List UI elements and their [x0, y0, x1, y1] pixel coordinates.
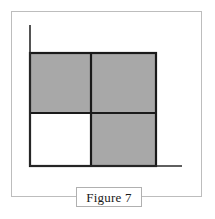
quadrant-bottom-left	[30, 113, 91, 166]
figure-caption-label: Figure 7	[86, 191, 131, 204]
quadrant-bottom-right	[91, 113, 156, 166]
figure-caption-box: Figure 7	[76, 187, 142, 207]
figure-page: Figure 7	[0, 0, 215, 219]
quadrant-top-left	[30, 53, 91, 113]
quadrant-top-right	[91, 53, 156, 113]
